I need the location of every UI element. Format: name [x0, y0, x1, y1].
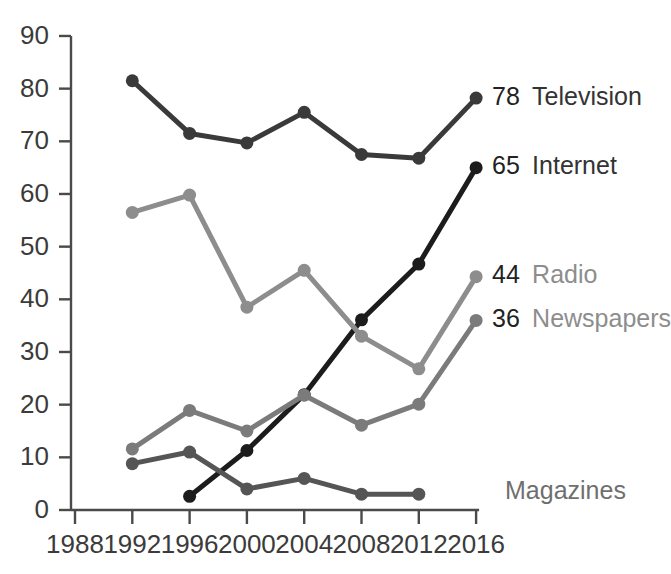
data-point[interactable] [240, 136, 253, 149]
line-chart: 0102030405060708090 19881992199620002004… [0, 0, 671, 574]
data-point[interactable] [126, 442, 139, 455]
series-line-internet [190, 168, 477, 497]
data-point[interactable] [412, 488, 425, 501]
x-tick-label-2016: 2016 [447, 529, 505, 559]
data-point[interactable] [298, 389, 311, 402]
data-point[interactable] [470, 161, 483, 174]
y-tick-label-30: 30 [20, 336, 49, 366]
series-label-magazines[interactable]: Magazines [505, 476, 626, 504]
data-point[interactable] [470, 270, 483, 283]
series-newspapers[interactable] [126, 314, 483, 456]
data-point[interactable] [183, 404, 196, 417]
series-label-newspapers[interactable]: Newspapers [532, 304, 671, 332]
data-point[interactable] [470, 92, 483, 105]
data-point[interactable] [240, 301, 253, 314]
x-tick-label-1996: 1996 [161, 529, 219, 559]
data-point[interactable] [126, 74, 139, 87]
data-point[interactable] [126, 206, 139, 219]
x-tick-label-2012: 2012 [390, 529, 448, 559]
y-tick-label-50: 50 [20, 231, 49, 261]
data-point[interactable] [240, 444, 253, 457]
y-tick-label-0: 0 [35, 494, 49, 524]
series-end-labels: 78Television65Internet44Radio36Newspaper… [492, 82, 671, 504]
series-layer [126, 74, 483, 503]
y-tick-label-40: 40 [20, 283, 49, 313]
end-value-television: 78 [492, 82, 520, 110]
data-point[interactable] [183, 127, 196, 140]
x-tick-label-1988: 1988 [46, 529, 104, 559]
x-tick-label-1992: 1992 [103, 529, 161, 559]
x-axis: 19881992199620002004200820122016 [46, 510, 505, 559]
y-tick-label-90: 90 [20, 20, 49, 50]
data-point[interactable] [298, 106, 311, 119]
series-internet[interactable] [183, 161, 483, 503]
y-tick-label-10: 10 [20, 441, 49, 471]
data-point[interactable] [126, 457, 139, 470]
series-label-television[interactable]: Television [532, 82, 642, 110]
y-tick-label-80: 80 [20, 73, 49, 103]
data-point[interactable] [183, 490, 196, 503]
data-point[interactable] [355, 330, 368, 343]
data-point[interactable] [412, 398, 425, 411]
data-point[interactable] [412, 258, 425, 271]
y-tick-label-70: 70 [20, 125, 49, 155]
data-point[interactable] [298, 264, 311, 277]
y-axis-ticks: 0102030405060708090 [20, 20, 71, 524]
end-value-newspapers: 36 [492, 304, 520, 332]
y-tick-label-20: 20 [20, 389, 49, 419]
series-radio[interactable] [126, 189, 483, 376]
x-tick-label-2008: 2008 [333, 529, 391, 559]
data-point[interactable] [412, 152, 425, 165]
y-axis: 0102030405060708090 [20, 20, 71, 524]
series-magazines[interactable] [126, 446, 426, 501]
series-line-newspapers [132, 320, 476, 449]
x-tick-label-2004: 2004 [275, 529, 333, 559]
x-axis-ticks: 19881992199620002004200820122016 [46, 510, 505, 559]
data-point[interactable] [355, 148, 368, 161]
end-value-radio: 44 [492, 260, 520, 288]
data-point[interactable] [298, 472, 311, 485]
series-label-internet[interactable]: Internet [532, 151, 617, 179]
y-tick-label-60: 60 [20, 178, 49, 208]
x-tick-label-2000: 2000 [218, 529, 276, 559]
data-point[interactable] [355, 419, 368, 432]
series-line-television [132, 81, 476, 158]
end-value-internet: 65 [492, 151, 520, 179]
data-point[interactable] [183, 189, 196, 202]
data-point[interactable] [240, 424, 253, 437]
series-television[interactable] [126, 74, 483, 164]
data-point[interactable] [355, 313, 368, 326]
series-line-radio [132, 195, 476, 369]
data-point[interactable] [412, 362, 425, 375]
chart-canvas: 0102030405060708090 19881992199620002004… [0, 0, 671, 574]
series-line-magazines [132, 452, 419, 494]
data-point[interactable] [240, 482, 253, 495]
data-point[interactable] [470, 314, 483, 327]
data-point[interactable] [355, 488, 368, 501]
series-label-radio[interactable]: Radio [532, 260, 597, 288]
data-point[interactable] [183, 446, 196, 459]
